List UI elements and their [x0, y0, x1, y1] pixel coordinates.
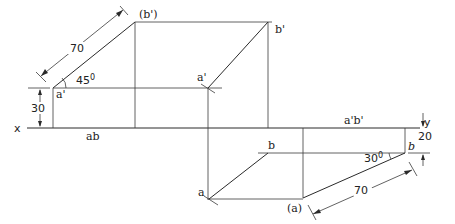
- dim-top-70: 70: [354, 184, 368, 197]
- final-top-view-line: [209, 153, 268, 199]
- label-b-prime-final: b': [275, 23, 285, 36]
- angle-arc-30: [389, 153, 391, 159]
- label-b-prime-initial: (b'): [139, 8, 158, 21]
- label-b-plan: b: [268, 139, 275, 152]
- arrow-head-icon: [38, 121, 42, 127]
- label-ab-on-xy: ab: [86, 130, 100, 143]
- x-label: x: [14, 122, 21, 135]
- y-label: y: [424, 116, 431, 129]
- label-a-prime-b-prime-on-xy: a'b': [344, 114, 364, 127]
- dim-tick-front-end: [120, 6, 128, 15]
- dim-distance-20: 20: [418, 130, 432, 143]
- arrow-head-icon: [404, 170, 412, 175]
- label-a-plan-initial: (a): [287, 202, 302, 215]
- final-front-view-line: [208, 22, 268, 88]
- dim-front-70: 70: [70, 42, 84, 55]
- label-a-prime-final: a': [197, 71, 207, 84]
- arrow-head-icon: [41, 69, 48, 76]
- angle-30-label: 300: [364, 151, 383, 165]
- dim-tick-top-start: [308, 205, 316, 220]
- dim-tick-top-end: [409, 162, 417, 176]
- angle-45-label: 450: [76, 73, 95, 87]
- dim-height-30: 30: [31, 102, 45, 115]
- drawing-svg: x y 70 450 30 a' (b') ab a' b' a'b' 70: [0, 0, 455, 224]
- arrow-head-icon: [116, 10, 123, 17]
- label-b-plan-right: b: [408, 140, 415, 153]
- arrow-head-icon: [38, 89, 42, 95]
- label-a-plan: a: [198, 186, 205, 199]
- label-a-prime-left: a': [56, 88, 66, 101]
- projection-drawing: x y 70 450 30 a' (b') ab a' b' a'b' 70: [0, 0, 455, 224]
- arrow-head-icon: [421, 154, 425, 160]
- arrow-head-icon: [313, 209, 321, 214]
